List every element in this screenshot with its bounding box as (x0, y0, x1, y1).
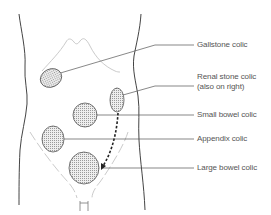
renal-site (110, 88, 124, 112)
label-small-bowel-colic: Small bowel colic (197, 110, 257, 120)
appendix-site (42, 126, 64, 152)
label-renal-stone-colic: Renal stone colic (197, 72, 256, 82)
label-appendix-colic: Appendix colic (197, 134, 247, 144)
gallstone-site (37, 65, 65, 91)
large-bowel-site (69, 152, 99, 184)
label-renal-subtext: (also on right) (197, 82, 244, 92)
label-large-bowel-colic: Large bowel colic (197, 163, 257, 173)
abdomen-diagram (0, 0, 271, 215)
small-bowel-site (73, 103, 97, 127)
label-gallstone-colic: Gallstone colic (197, 40, 248, 50)
groin-mark (80, 201, 88, 211)
body-outline-right (133, 14, 145, 210)
leader-renal (123, 86, 194, 95)
body-outline-left (19, 14, 27, 205)
leader-gallstone (57, 45, 194, 74)
